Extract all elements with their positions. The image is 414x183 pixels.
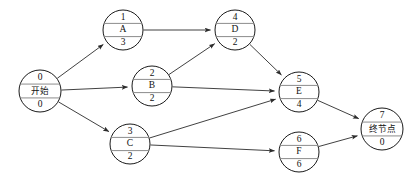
node-D[interactable]: 4D2: [215, 10, 255, 50]
node-D-top-text: 4: [233, 12, 238, 22]
node-A-bottom-text: 3: [121, 37, 126, 47]
node-end-bottom-text: 0: [380, 137, 385, 147]
edge-start-to-B: [61, 87, 127, 90]
node-E-bottom-text: 4: [297, 99, 302, 109]
node-B-top-text: 2: [150, 68, 155, 78]
node-end[interactable]: 7终节点0: [361, 108, 403, 150]
node-C[interactable]: 3C2: [110, 124, 150, 164]
node-B-middle-text: B: [149, 80, 155, 90]
edge-D-to-E: [250, 44, 282, 75]
node-start[interactable]: 0开始0: [19, 70, 61, 112]
edge-start-to-A: [57, 45, 103, 79]
node-B-bottom-text: 2: [150, 93, 155, 103]
node-E[interactable]: 5E4: [279, 72, 319, 112]
node-C-middle-text: C: [127, 138, 133, 148]
edge-C-to-F: [150, 145, 274, 151]
diagram-canvas: 0开始01A32B23C24D25E46F67终节点0: [0, 0, 414, 183]
node-F-middle-text: F: [296, 146, 301, 156]
node-A-middle-text: A: [120, 24, 127, 34]
node-C-top-text: 3: [128, 126, 133, 136]
node-D-middle-text: D: [232, 24, 239, 34]
edge-start-to-C: [59, 102, 109, 132]
node-E-middle-text: E: [296, 86, 302, 96]
node-A[interactable]: 1A3: [103, 10, 143, 50]
node-F-top-text: 6: [297, 134, 302, 144]
edge-E-to-end: [318, 100, 359, 118]
node-end-top-text: 7: [380, 110, 385, 120]
node-E-top-text: 5: [297, 74, 302, 84]
node-B[interactable]: 2B2: [132, 66, 172, 106]
graph-svg: 0开始01A32B23C24D25E46F67终节点0: [0, 0, 414, 183]
node-C-bottom-text: 2: [128, 151, 133, 161]
edge-C-to-E: [150, 99, 276, 138]
edge-F-to-end: [319, 136, 358, 147]
node-A-top-text: 1: [121, 12, 126, 22]
node-D-bottom-text: 2: [233, 37, 238, 47]
edge-B-to-E: [172, 87, 274, 91]
edge-B-to-D: [169, 44, 215, 75]
node-start-bottom-text: 0: [38, 99, 43, 109]
node-end-middle-text: 终节点: [369, 123, 396, 134]
node-F-bottom-text: 6: [297, 159, 302, 169]
node-start-top-text: 0: [38, 72, 43, 82]
node-start-middle-text: 开始: [31, 85, 49, 96]
node-F[interactable]: 6F6: [279, 132, 319, 172]
